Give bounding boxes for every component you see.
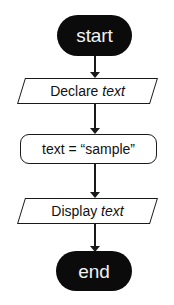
connector-shaft [94, 56, 96, 73]
connector-display-to-end [89, 224, 100, 252]
flowchart-canvas: start Declare text text = “sample” Displ… [0, 0, 174, 305]
flowchart-node-display[interactable]: Display text [21, 198, 154, 224]
connector-shaft [94, 104, 96, 129]
connector-shaft [94, 164, 96, 193]
node-declare-label-prefix: Declare [50, 83, 102, 99]
flowchart-node-start[interactable]: start [57, 15, 132, 56]
node-display-label: Display text [51, 204, 123, 218]
connector-shaft [94, 224, 96, 247]
node-display-label-prefix: Display [51, 203, 101, 219]
node-display-label-variable: text [101, 203, 124, 219]
connector-assign-to-display [89, 164, 100, 198]
flowchart-node-declare[interactable]: Declare text [21, 78, 154, 104]
node-start-label: start [76, 26, 112, 45]
node-assign-label: text = “sample” [42, 142, 135, 156]
connector-declare-to-assign [89, 104, 100, 134]
flowchart-node-assign[interactable]: text = “sample” [20, 134, 157, 164]
connector-start-to-declare [89, 56, 100, 78]
node-declare-label: Declare text [50, 84, 125, 98]
flowchart-node-end[interactable]: end [56, 251, 132, 291]
node-end-label: end [78, 262, 109, 281]
node-declare-label-variable: text [102, 83, 125, 99]
